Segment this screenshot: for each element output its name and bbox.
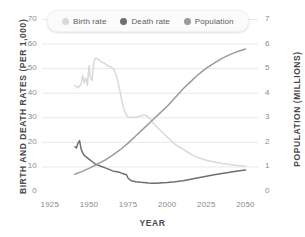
plot-svg — [42, 19, 258, 191]
y-axis-left-tick-70: 70 — [13, 14, 37, 23]
gridlines — [42, 20, 258, 167]
legend-item-label: Population — [195, 17, 234, 26]
y-axis-right-tick-2: 2 — [265, 137, 289, 146]
y-axis-left-tick-40: 40 — [13, 88, 37, 97]
legend-swatch-icon — [120, 18, 127, 25]
legend-item-death-rate[interactable]: Death rate — [120, 17, 169, 26]
y-axis-right-tick-0: 0 — [265, 186, 289, 195]
y-axis-right-tick-5: 5 — [265, 63, 289, 72]
legend-item-birth-rate[interactable]: Birth rate — [62, 17, 106, 26]
legend-item-label: Birth rate — [73, 17, 106, 26]
x-axis-title: YEAR — [0, 218, 305, 228]
y-axis-right-tick-1: 1 — [265, 161, 289, 170]
x-axis-tick-2025: 2025 — [186, 200, 226, 209]
x-axis-tick-2050: 2050 — [225, 200, 265, 209]
x-axis-tick-1950: 1950 — [69, 200, 109, 209]
y-axis-left-tick-20: 20 — [13, 137, 37, 146]
y-axis-left-tick-10: 10 — [13, 161, 37, 170]
y-axis-right-title: POPULATION (MILLIONS) — [292, 24, 302, 194]
y-axis-right-tick-6: 6 — [265, 39, 289, 48]
x-axis-tick-1925: 1925 — [30, 200, 70, 209]
y-axis-right-tick-7: 7 — [265, 14, 289, 23]
axis-lines — [42, 20, 258, 192]
legend-item-population[interactable]: Population — [184, 17, 234, 26]
y-axis-left-tick-50: 50 — [13, 63, 37, 72]
series-line-population — [75, 49, 246, 174]
legend-swatch-icon — [62, 18, 69, 25]
y-axis-right-tick-3: 3 — [265, 112, 289, 121]
legend-swatch-icon — [184, 18, 191, 25]
y-axis-left-tick-0: 0 — [13, 186, 37, 195]
x-axis-tick-1975: 1975 — [108, 200, 148, 209]
y-axis-right-tick-4: 4 — [265, 88, 289, 97]
y-axis-left-tick-60: 60 — [13, 39, 37, 48]
legend-item-label: Death rate — [131, 17, 169, 26]
x-axis-tick-2000: 2000 — [147, 200, 187, 209]
chart-legend: Birth rateDeath ratePopulation — [47, 10, 249, 32]
population-rates-chart: BIRTH AND DEATH RATES (PER 1,000) POPULA… — [0, 0, 305, 237]
plot-area — [42, 19, 258, 191]
y-axis-left-tick-30: 30 — [13, 112, 37, 121]
